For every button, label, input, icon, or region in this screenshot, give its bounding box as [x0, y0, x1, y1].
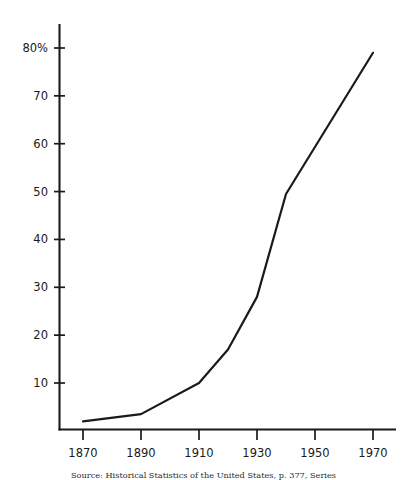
y-tick-label: 40 [33, 232, 48, 246]
y-tick-label: 80% [22, 41, 48, 55]
x-tick-label: 1890 [126, 446, 155, 460]
y-tick-label: 60 [33, 137, 48, 151]
data-series-line [83, 53, 373, 422]
x-tick-label: 1870 [68, 446, 97, 460]
x-tick-label: 1910 [184, 446, 213, 460]
x-axis-ticks [83, 429, 373, 440]
y-tick-label: 30 [33, 280, 48, 294]
y-tick-label: 50 [33, 185, 48, 199]
y-tick-label: 70 [33, 89, 48, 103]
y-axis-tick-labels: 80%70605040302010 [22, 41, 48, 390]
line-chart-plot: 80%70605040302010 1870189019101930195019… [0, 0, 407, 480]
chart-container: 80%70605040302010 1870189019101930195019… [0, 0, 407, 480]
y-tick-label: 10 [33, 376, 48, 390]
x-tick-label: 1970 [358, 446, 387, 460]
figure-caption: Source: Historical Statistics of the Uni… [0, 470, 407, 480]
x-tick-label: 1950 [300, 446, 329, 460]
x-tick-label: 1930 [242, 446, 271, 460]
x-axis-tick-labels: 187018901910193019501970 [68, 446, 387, 460]
y-tick-label: 20 [33, 328, 48, 342]
